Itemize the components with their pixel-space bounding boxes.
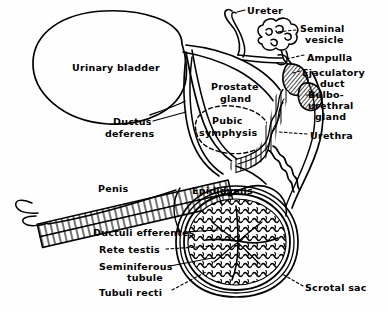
leader-scrotal-sac — [282, 274, 303, 286]
label-ductus-deferens: Ductus — [113, 117, 152, 128]
ureter-shape — [225, 10, 245, 57]
leader-tubuli-recti — [172, 272, 206, 290]
label-seminiferous-tubule: Seminiferous — [99, 262, 173, 273]
leader-urethra — [279, 132, 307, 134]
label-prostate-gland-2: gland — [220, 94, 251, 105]
label-ejaculatory-duct: Ejaculatory — [302, 68, 365, 79]
label-scrotal-sac: Scrotal sac — [305, 283, 367, 294]
label-bulbourethral-2: urethral — [308, 101, 354, 112]
diagram-artwork — [0, 0, 388, 312]
label-seminal-vesicle: Seminal — [300, 24, 345, 35]
leader-ductus-deferens — [153, 112, 186, 121]
label-prostate-gland: Prostate — [211, 82, 259, 93]
label-penis: Penis — [98, 184, 128, 195]
label-ductuli-efferentes: Ductuli efferentes — [93, 228, 195, 239]
label-urinary-bladder: Urinary bladder — [72, 63, 160, 74]
label-ductus-deferens-2: deferens — [105, 129, 154, 140]
label-epididymis: Epididymis — [192, 186, 253, 197]
leader-ureter — [237, 10, 245, 12]
label-ejaculatory-duct-2: duct — [320, 79, 345, 90]
leader-seminal-vesicle — [277, 30, 296, 32]
ampulla-shape — [238, 55, 287, 65]
label-rete-testis: Rete testis — [99, 245, 160, 256]
label-seminal-vesicle-2: vesicle — [305, 35, 344, 46]
label-pubic-symphysis: Pubic — [212, 116, 243, 127]
label-bulbourethral: Bulbo- — [308, 90, 344, 101]
label-bulbourethral-3: gland — [315, 112, 346, 123]
label-ampulla: Ampulla — [307, 53, 353, 64]
label-ureter: Ureter — [247, 6, 283, 17]
label-tubuli-recti: Tubuli recti — [99, 288, 162, 299]
leader-ampulla — [286, 55, 304, 59]
label-pubic-symphysis-2: symphysis — [199, 128, 257, 139]
anatomical-diagram: Ureter Seminal vesicle Ampulla Ejaculato… — [0, 0, 388, 312]
label-urethra: Urethra — [310, 131, 353, 142]
label-seminiferous-tubule-2: tubule — [127, 273, 163, 284]
